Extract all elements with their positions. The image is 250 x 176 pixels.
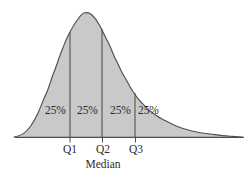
skewed-distribution-quartile-figure: 25% 25% 25% 25% Q1 Q2 Q3 Median bbox=[0, 0, 250, 176]
distribution-curve-plot bbox=[0, 0, 250, 176]
region-percent-label-3: 25% bbox=[110, 105, 131, 117]
region-percent-label-2: 25% bbox=[77, 105, 98, 117]
axis-label-q3: Q3 bbox=[129, 144, 143, 156]
axis-label-q1: Q1 bbox=[63, 144, 77, 156]
region-percent-label-4: 25% bbox=[138, 105, 159, 117]
region-percent-label-1: 25% bbox=[45, 105, 66, 117]
curve-fill-area bbox=[14, 13, 242, 137]
median-caption: Median bbox=[85, 159, 120, 171]
axis-label-q2: Q2 bbox=[96, 144, 110, 156]
